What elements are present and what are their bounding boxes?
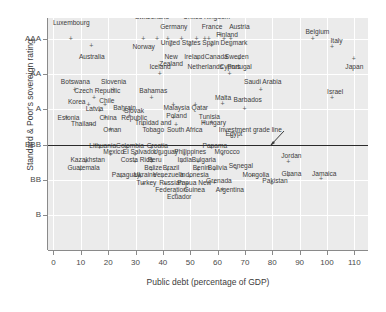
- point-label: Malta: [215, 94, 231, 101]
- point-label: Czech Republic: [74, 87, 120, 94]
- x-axis-line: [48, 250, 368, 251]
- point-label: Sweden: [225, 53, 249, 60]
- x-tick-label-50: 50: [175, 258, 205, 267]
- data-point: [287, 161, 290, 164]
- point-label: Turkey: [136, 179, 156, 186]
- point-label: Senegal: [229, 162, 253, 169]
- point-label: Australia: [79, 53, 105, 60]
- x-tick-label-10: 10: [66, 258, 96, 267]
- point-label: Iceland: [149, 63, 170, 70]
- point-label: El Salvador: [123, 148, 157, 155]
- point-label: Thailand: [71, 120, 96, 127]
- x-tick-label-110: 110: [339, 258, 369, 267]
- point-label: China: [100, 114, 117, 121]
- x-tick-50: [190, 250, 191, 255]
- data-point: [312, 38, 315, 41]
- x-tick-30: [136, 250, 137, 255]
- x-tick-label-20: 20: [93, 258, 123, 267]
- point-label: Italy: [331, 37, 343, 44]
- point-label: Morocco: [214, 148, 239, 155]
- data-point: [353, 58, 356, 61]
- x-tick-label-90: 90: [285, 258, 315, 267]
- x-tick-label-0: 0: [38, 258, 68, 267]
- y-axis-title: Standard & Poor's sovereign rating: [25, 20, 35, 190]
- x-tick-40: [163, 250, 164, 255]
- y-tick-B: [43, 215, 48, 216]
- investment-grade-line: [48, 145, 368, 147]
- gridline-y-AA: [48, 74, 368, 75]
- x-tick-20: [108, 250, 109, 255]
- point-label: Latvia: [86, 105, 104, 112]
- x-tick-label-80: 80: [257, 258, 287, 267]
- point-label: Belgium: [305, 28, 329, 35]
- point-label: Spain: [202, 39, 219, 46]
- data-point: [104, 104, 107, 107]
- point-label: Ghana: [282, 170, 302, 177]
- x-tick-100: [327, 250, 328, 255]
- point-label: Philippines: [174, 148, 206, 155]
- point-label: Chile: [99, 97, 114, 104]
- point-label: Malaysia: [164, 104, 190, 111]
- point-label: India: [178, 156, 192, 163]
- x-tick-70: [245, 250, 246, 255]
- point-label: Japan: [345, 63, 363, 70]
- x-tick-80: [272, 250, 273, 255]
- gridline-y-B: [48, 215, 368, 216]
- point-label: Ireland: [184, 53, 204, 60]
- point-label: United States: [161, 39, 201, 46]
- plot-area: LuxembourgAustraliaSwitzerlandGermanyNor…: [48, 18, 368, 250]
- x-tick-label-40: 40: [148, 258, 178, 267]
- y-tick-BB: [43, 180, 48, 181]
- y-tick-AA: [43, 74, 48, 75]
- point-label: Barbados: [234, 96, 262, 103]
- data-point: [156, 38, 159, 41]
- x-tick-60: [218, 250, 219, 255]
- data-point: [142, 38, 145, 41]
- chart-container: LuxembourgAustraliaSwitzerlandGermanyNor…: [0, 0, 386, 312]
- point-label: Bahamas: [139, 87, 167, 94]
- data-point: [150, 97, 153, 100]
- point-label: Bolivia: [208, 164, 227, 171]
- point-label: Switzerland: [135, 18, 169, 21]
- x-tick-10: [81, 250, 82, 255]
- y-tick-label-B: B: [0, 210, 41, 219]
- point-label: France: [202, 23, 223, 30]
- data-point: [159, 73, 162, 76]
- cropped-title-remnant: [0, 0, 386, 7]
- x-tick-0: [53, 250, 54, 255]
- x-axis-title: Public debt (percentage of GDP): [48, 277, 368, 287]
- point-label: Guatemala: [67, 164, 99, 171]
- x-tick-110: [354, 250, 355, 255]
- point-label: Saudi Arabia: [244, 78, 281, 85]
- point-label: Bulgaria: [192, 156, 216, 163]
- point-label: Oman: [103, 126, 121, 133]
- point-label: Korea: [68, 98, 86, 105]
- x-tick-label-100: 100: [312, 258, 342, 267]
- point-label: Argentina: [216, 186, 244, 193]
- point-label: Qatar: [192, 104, 209, 111]
- point-label: Grenada: [206, 177, 232, 184]
- point-label: Peru: [148, 156, 162, 163]
- y-tick-AAA: [43, 39, 48, 40]
- data-point: [90, 45, 93, 48]
- data-point: [243, 108, 246, 111]
- point-label: Pakistan: [262, 177, 287, 184]
- point-label: Netherlands: [187, 63, 223, 70]
- point-label: Cyprus: [219, 63, 240, 70]
- point-label: Germany: [160, 23, 187, 30]
- point-label: Ecuador: [167, 193, 192, 200]
- point-label: Slovenia: [101, 78, 126, 85]
- point-label: Austria: [229, 23, 250, 30]
- point-label: Jamaica: [312, 170, 337, 177]
- data-point: [331, 46, 334, 49]
- data-point: [70, 38, 73, 41]
- point-label: Norway: [133, 43, 155, 50]
- point-label: Indonesia: [180, 171, 209, 178]
- x-tick-label-30: 30: [121, 258, 151, 267]
- data-point: [320, 178, 323, 181]
- y-tick-BBB: [43, 145, 48, 146]
- data-point: [228, 73, 231, 76]
- point-label: United Kingdom: [183, 18, 230, 21]
- data-point: [222, 103, 225, 106]
- point-label: Botswana: [61, 78, 90, 85]
